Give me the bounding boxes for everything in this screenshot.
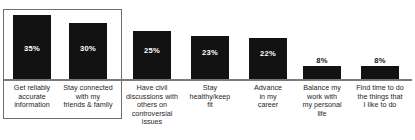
bar-value-label: 8% [303, 56, 341, 65]
bar-group: 30% Stay connected with my friends & fam… [69, 0, 107, 140]
plot-area: 35% Get reliably accurate information 30… [0, 0, 415, 140]
bar [361, 66, 399, 79]
bar [191, 36, 229, 79]
bar [249, 38, 287, 79]
category-label: Stay healthy/keep fit [184, 84, 236, 110]
bar-value-label: 8% [361, 56, 399, 65]
bar [303, 66, 341, 79]
bar-value-label: 30% [69, 44, 107, 53]
bar-value-label: 22% [249, 49, 287, 58]
category-label: Advance in my career [243, 84, 293, 110]
bar-value-label: 25% [133, 46, 171, 55]
category-label: Find time to do the things that I like t… [349, 84, 411, 110]
bar-chart: % Difference: More difficult vs. Less di… [0, 0, 415, 140]
category-label: Get reliably accurate information [7, 84, 57, 110]
category-label: Balance my work with my personal life [295, 84, 349, 118]
bar-value-label: 23% [191, 48, 229, 57]
bar-group: 8% Balance my work with my personal life [303, 0, 341, 140]
category-label: Have civil discussions with others on co… [122, 84, 182, 127]
bar-group: 25% Have civil discussions with others o… [133, 0, 171, 140]
bar [133, 31, 171, 79]
bar-group: 22% Advance in my career [249, 0, 287, 140]
bar-value-label: 35% [13, 44, 51, 53]
bar-group: 35% Get reliably accurate information [13, 0, 51, 140]
category-label: Stay connected with my friends & family [60, 84, 116, 110]
bar-group: 23% Stay healthy/keep fit [191, 0, 229, 140]
bar-group: 8% Find time to do the things that I lik… [361, 0, 399, 140]
